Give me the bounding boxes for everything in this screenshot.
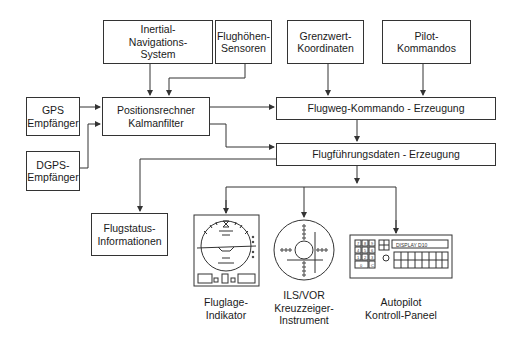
guidance-data-box: Flugführungsdaten - Erzeugung bbox=[276, 143, 496, 166]
dgps-label-1: DGPS- bbox=[27, 159, 78, 172]
autopilot-caption: AutopilotKontroll-Paneel bbox=[356, 296, 446, 321]
gps-label-2: Empfänger bbox=[27, 117, 78, 130]
limits-label-2: Koordinaten bbox=[297, 42, 354, 55]
position-computer-box: PositionsrechnerKalmanfilter bbox=[102, 97, 210, 136]
pilot-label-2: Kommandos bbox=[397, 42, 456, 55]
flightpath-command-box: Flugweg-Kommando - Erzeugung bbox=[276, 97, 496, 120]
flight-status-box: Flugstatus-Informationen bbox=[91, 213, 168, 256]
attitude-indicator-caption: Fluglage-Indikator bbox=[186, 296, 266, 321]
altitude-sensors-box: Flughöhen-Sensoren bbox=[215, 20, 272, 64]
svg-text:C: C bbox=[371, 263, 374, 268]
svg-text:1: 1 bbox=[357, 255, 360, 260]
dgps-receiver-box: DGPS-Empfänger bbox=[26, 151, 80, 191]
altitude-label-1: Flughöhen- bbox=[217, 30, 270, 43]
autopilot-caption-1: Autopilot bbox=[356, 296, 446, 309]
ilsvor-caption: ILS/VORKreuzzeiger-Instrument bbox=[264, 289, 344, 327]
arrow-dgps-to-position bbox=[79, 124, 100, 168]
ins-label-2: Navigations- bbox=[129, 36, 187, 49]
svg-text:9: 9 bbox=[371, 241, 374, 246]
status-label-1: Flugstatus- bbox=[97, 222, 161, 235]
svg-text:3: 3 bbox=[371, 255, 374, 260]
arrow-altitude-to-position bbox=[169, 63, 245, 95]
ins-box: Inertial-Navigations-System bbox=[103, 20, 213, 64]
autopilot-display-text: DISPLAY D10 bbox=[396, 242, 427, 248]
arrow-position-to-guidance bbox=[209, 124, 274, 147]
pilot-label-1: Pilot- bbox=[397, 30, 456, 43]
gps-label-1: GPS bbox=[27, 104, 78, 117]
altitude-label-2: Sensoren bbox=[217, 42, 270, 55]
limits-label-1: Grenzwert- bbox=[297, 30, 354, 43]
autopilot-caption-2: Kontroll-Paneel bbox=[356, 309, 446, 322]
svg-text:6: 6 bbox=[371, 248, 374, 253]
attitude-caption-1: Fluglage- bbox=[186, 296, 266, 309]
svg-text:8: 8 bbox=[364, 241, 367, 246]
ilsvor-caption-2: Kreuzzeiger- bbox=[264, 302, 344, 315]
svg-text:4: 4 bbox=[357, 248, 360, 253]
dgps-label-2: Empfänger bbox=[27, 171, 78, 184]
ilsvor-caption-3: Instrument bbox=[264, 314, 344, 327]
attitude-caption-2: Indikator bbox=[186, 309, 266, 322]
ins-label-3: System bbox=[129, 48, 187, 61]
arrow-guidance-to-status bbox=[140, 159, 276, 211]
ilsvor-caption-1: ILS/VOR bbox=[264, 289, 344, 302]
instrument-bus bbox=[226, 187, 396, 233]
status-label-2: Informationen bbox=[97, 235, 161, 248]
limit-coordinates-box: Grenzwert-Koordinaten bbox=[287, 20, 364, 64]
position-label-2: Kalmanfilter bbox=[117, 117, 195, 130]
gps-receiver-box: GPSEmpfänger bbox=[26, 97, 80, 136]
svg-text:2: 2 bbox=[364, 255, 367, 260]
flightpath-label: Flugweg-Kommando - Erzeugung bbox=[308, 102, 465, 115]
pilot-commands-box: Pilot-Kommandos bbox=[382, 20, 471, 64]
crosspointer-instrument-icon bbox=[274, 220, 334, 280]
ins-label-1: Inertial- bbox=[129, 23, 187, 36]
keypad-key-7: 7 bbox=[357, 241, 360, 246]
svg-text:5: 5 bbox=[364, 248, 367, 253]
guidance-label: Flugführungsdaten - Erzeugung bbox=[312, 148, 460, 161]
position-label-1: Positionsrechner bbox=[117, 104, 195, 117]
attitude-indicator-icon bbox=[194, 215, 259, 286]
svg-text:0: 0 bbox=[360, 263, 363, 268]
